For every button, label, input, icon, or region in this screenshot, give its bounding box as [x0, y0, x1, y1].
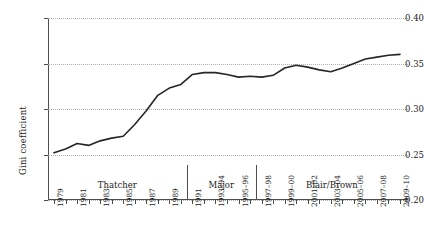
series-line-svg — [0, 0, 424, 252]
gini-series-line — [54, 54, 400, 152]
gini-coefficient-line-chart: Gini coefficient 0.200.250.300.350.40 19… — [0, 0, 424, 252]
